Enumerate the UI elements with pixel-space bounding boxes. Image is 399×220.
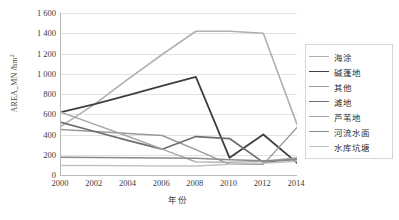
y-axis-tick-label: 800 [12, 89, 56, 99]
y-axis-tick-label: 1 600 [12, 8, 56, 18]
x-axis-tick-label: 2006 [153, 178, 170, 188]
series-line [61, 77, 297, 163]
y-axis-tick-label: 0 [12, 170, 56, 180]
legend-item[interactable]: 海涂 [309, 49, 389, 64]
y-axis-tick-labels: 02004006008001 0001 2001 4001 600 [8, 0, 56, 220]
legend-item[interactable]: 碱蓬地 [309, 64, 389, 79]
legend-color-swatch [309, 116, 329, 117]
legend-item-label: 碱蓬地 [334, 66, 361, 78]
legend-item[interactable]: 芦苇地 [309, 109, 389, 124]
legend-color-swatch [309, 146, 329, 147]
x-axis-tick-label: 2002 [85, 178, 102, 188]
x-axis-tick-label: 2010 [220, 178, 237, 188]
series-line [61, 112, 297, 162]
legend-color-swatch [309, 131, 329, 132]
legend-item-label: 水库坑塘 [334, 141, 370, 153]
y-axis-tick-label: 200 [12, 150, 56, 160]
y-axis-tick-label: 600 [12, 109, 56, 119]
series-line [61, 157, 297, 161]
x-axis-tick-label: 2014 [288, 178, 305, 188]
x-axis-tick-label: 2008 [186, 178, 203, 188]
legend-color-swatch [309, 86, 329, 87]
legend-color-swatch [309, 101, 329, 102]
y-axis-tick-label: 1 000 [12, 69, 56, 79]
legend-color-swatch [309, 56, 329, 57]
line-chart: AREA_MN /hm2 02004006008001 0001 2001 40… [0, 0, 399, 220]
y-axis-tick-label: 1 200 [12, 49, 56, 59]
legend-color-swatch [309, 71, 329, 72]
y-axis-tick-label: 400 [12, 130, 56, 140]
legend-item-label: 海涂 [334, 51, 352, 63]
legend-item[interactable]: 河流水面 [309, 124, 389, 139]
x-axis-tick-labels: 20002002200420062008201020122014 [60, 178, 296, 192]
x-axis-tick-label: 2000 [52, 178, 69, 188]
y-axis-tick-label: 1 400 [12, 28, 56, 38]
plot-area [60, 13, 297, 176]
series-line [61, 31, 297, 126]
legend-item[interactable]: 滩地 [309, 94, 389, 109]
legend-item-label: 其他 [334, 81, 352, 93]
legend-item-label: 芦苇地 [334, 111, 361, 123]
series-lines [61, 13, 297, 175]
legend-item[interactable]: 水库坑塘 [309, 139, 389, 154]
x-axis-tick-label: 2004 [119, 178, 136, 188]
x-axis-title: 年份 [60, 193, 296, 205]
series-line [61, 122, 297, 162]
legend-item-label: 河流水面 [334, 126, 370, 138]
chart-legend: 海涂碱蓬地其他滩地芦苇地河流水面水库坑塘 [305, 44, 393, 159]
legend-item[interactable]: 其他 [309, 79, 389, 94]
x-axis-tick-label: 2012 [254, 178, 271, 188]
legend-item-label: 滩地 [334, 96, 352, 108]
